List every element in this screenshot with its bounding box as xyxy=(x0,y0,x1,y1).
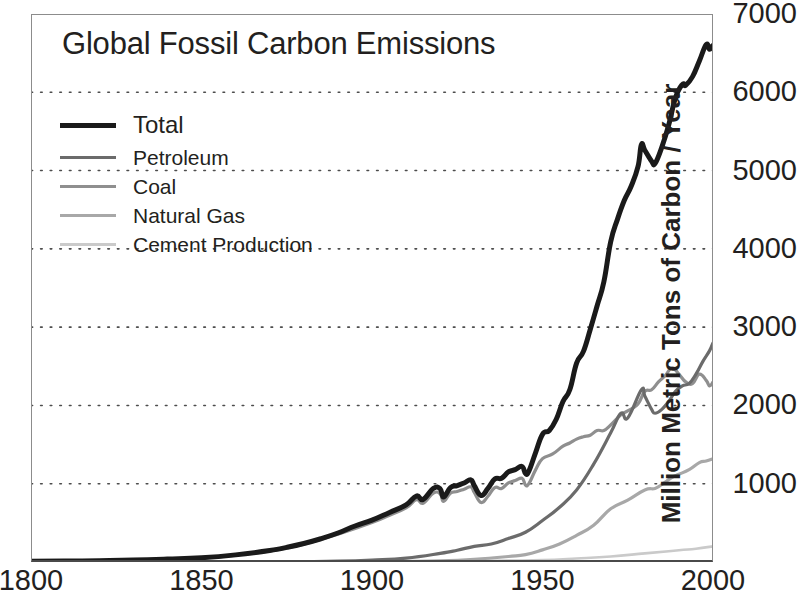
legend-label-total: Total xyxy=(133,113,184,137)
legend-swatch-cement-production xyxy=(60,243,116,246)
x-tick-label: 1900 xyxy=(317,566,427,595)
legend-label-natural-gas: Natural Gas xyxy=(133,205,245,226)
x-tick-label: 1950 xyxy=(488,566,598,595)
legend-item-natural-gas: Natural Gas xyxy=(60,201,390,230)
x-tick-label: 2000 xyxy=(658,566,768,595)
y-tick-label: 6000 xyxy=(717,77,797,106)
y-tick-label: 3000 xyxy=(717,312,797,341)
chart-container: Global Fossil Carbon Emissions Total Pet… xyxy=(0,0,812,610)
legend-swatch-natural-gas xyxy=(60,214,116,217)
legend-label-cement-production: Cement Production xyxy=(133,234,313,255)
y-axis-title: Million Metric Tons of Carbon / Year xyxy=(656,44,687,564)
x-tick-label: 1800 xyxy=(0,566,86,595)
legend-swatch-total xyxy=(60,123,116,128)
chart-legend: Total Petroleum Coal Natural Gas Cement … xyxy=(60,107,390,259)
legend-item-total: Total xyxy=(60,107,390,143)
y-tick-label: 2000 xyxy=(717,390,797,419)
y-tick-label: 7000 xyxy=(717,0,797,28)
y-tick-label: 4000 xyxy=(717,234,797,263)
legend-swatch-coal xyxy=(60,185,116,188)
legend-label-petroleum: Petroleum xyxy=(133,147,229,168)
legend-item-cement-production: Cement Production xyxy=(60,230,390,259)
legend-item-petroleum: Petroleum xyxy=(60,143,390,172)
x-tick-label: 1850 xyxy=(147,566,257,595)
plot-frame xyxy=(31,14,713,562)
legend-swatch-petroleum xyxy=(60,156,116,159)
y-tick-label: 5000 xyxy=(717,156,797,185)
legend-item-coal: Coal xyxy=(60,172,390,201)
y-tick-label: 1000 xyxy=(717,469,797,498)
chart-title: Global Fossil Carbon Emissions xyxy=(62,26,495,62)
legend-label-coal: Coal xyxy=(133,176,176,197)
